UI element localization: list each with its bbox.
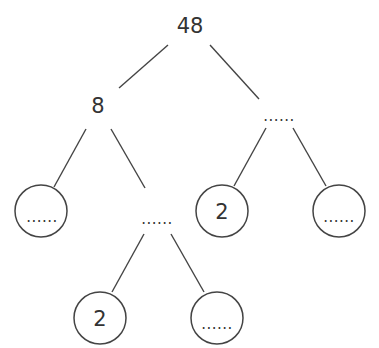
- bottom-two-label: 2: [93, 307, 106, 331]
- edge-mid-blank-to-bottom-leaf: [171, 234, 204, 292]
- edge-8-to-mid-blank: [111, 129, 145, 188]
- mid-blank-label: ......: [141, 210, 173, 228]
- left-leaf-label: ......: [26, 208, 58, 226]
- root-label: 48: [177, 14, 204, 38]
- edge-mid-blank-to-bottom-two: [112, 234, 144, 292]
- right-two-label: 2: [215, 200, 228, 224]
- edge-right-blank-to-right-leaf: [293, 128, 326, 186]
- node-8-label: 8: [91, 94, 104, 118]
- edge-48-to-8: [119, 45, 168, 88]
- edge-48-to-right-blank: [210, 45, 259, 99]
- edge-8-to-left-leaf: [54, 129, 86, 187]
- edge-right-blank-to-two: [234, 128, 266, 186]
- right-blank-label: ......: [263, 107, 295, 125]
- bottom-leaf-label: ......: [201, 315, 233, 333]
- right-leaf-label: ......: [323, 208, 355, 226]
- factor-tree-diagram: 48 8 ...... ...... ...... 2 ...... 2 ...…: [0, 0, 379, 348]
